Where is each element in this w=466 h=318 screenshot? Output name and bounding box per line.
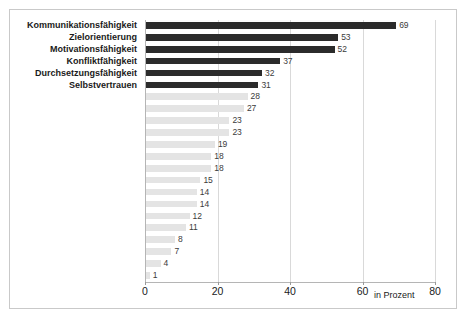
category-label: Kommunikationsfähigkeit bbox=[27, 20, 137, 31]
bar-row[interactable]: 31 bbox=[145, 80, 435, 92]
bar-row[interactable]: 18 bbox=[145, 151, 435, 163]
bar[interactable] bbox=[146, 117, 229, 124]
bar-row[interactable]: 1 bbox=[145, 270, 435, 282]
gridline-80 bbox=[435, 20, 436, 282]
x-tick-label-40: 40 bbox=[284, 285, 296, 298]
category-label-row-empty bbox=[12, 163, 141, 175]
bar[interactable] bbox=[146, 58, 280, 65]
bar-value-label: 11 bbox=[189, 221, 198, 234]
category-label-row-empty bbox=[12, 199, 141, 211]
bar-value-label: 27 bbox=[247, 102, 256, 115]
category-label-row-empty bbox=[12, 246, 141, 258]
chart-figure: KommunikationsfähigkeitZielorientierungM… bbox=[0, 0, 466, 318]
x-tick-label-60: 60 bbox=[357, 285, 369, 298]
category-label-row-empty bbox=[12, 151, 141, 163]
category-label-row-empty bbox=[12, 234, 141, 246]
bar-value-label: 18 bbox=[214, 162, 223, 175]
x-tick-label-0: 0 bbox=[142, 285, 148, 298]
bar-row[interactable]: 11 bbox=[145, 222, 435, 234]
bar-row[interactable]: 27 bbox=[145, 103, 435, 115]
category-label: Zielorientierung bbox=[69, 32, 137, 43]
bar[interactable] bbox=[146, 70, 262, 77]
bar-row[interactable]: 23 bbox=[145, 115, 435, 127]
bar[interactable] bbox=[146, 141, 215, 148]
bar[interactable] bbox=[146, 248, 171, 255]
category-label-row: Motivationsfähigkeit bbox=[12, 44, 141, 56]
category-label-row: Selbstvertrauen bbox=[12, 80, 141, 92]
category-label-row-empty bbox=[12, 222, 141, 234]
category-label-row-empty bbox=[12, 139, 141, 151]
bar-row[interactable]: 69 bbox=[145, 20, 435, 32]
category-label: Konfliktfähigkeit bbox=[66, 56, 137, 67]
category-label-row: Zielorientierung bbox=[12, 32, 141, 44]
category-label: Durchsetzungsfähigkeit bbox=[35, 68, 137, 79]
bar[interactable] bbox=[146, 153, 211, 160]
bar[interactable] bbox=[146, 201, 197, 208]
bar-row[interactable]: 18 bbox=[145, 163, 435, 175]
category-label-row-empty bbox=[12, 127, 141, 139]
bar[interactable] bbox=[146, 260, 161, 267]
category-label-row-empty bbox=[12, 211, 141, 223]
bar[interactable] bbox=[146, 129, 229, 136]
bar-row[interactable]: 53 bbox=[145, 32, 435, 44]
bar[interactable] bbox=[146, 34, 338, 41]
bar[interactable] bbox=[146, 22, 396, 29]
category-labels: KommunikationsfähigkeitZielorientierungM… bbox=[12, 20, 141, 282]
bar[interactable] bbox=[146, 177, 200, 184]
category-label-row-empty bbox=[12, 103, 141, 115]
bar-row[interactable]: 15 bbox=[145, 175, 435, 187]
bar[interactable] bbox=[146, 105, 244, 112]
bar-row[interactable]: 19 bbox=[145, 139, 435, 151]
bar-value-label: 1 bbox=[153, 269, 158, 282]
category-label-row: Konfliktfähigkeit bbox=[12, 56, 141, 68]
bar[interactable] bbox=[146, 272, 150, 279]
category-label-row-empty bbox=[12, 258, 141, 270]
bar-rows: 6953523732312827232319181815141412118741 bbox=[145, 20, 435, 282]
bar-row[interactable]: 8 bbox=[145, 234, 435, 246]
bar-row[interactable]: 32 bbox=[145, 68, 435, 80]
bar-row[interactable]: 23 bbox=[145, 127, 435, 139]
bar-row[interactable]: 14 bbox=[145, 187, 435, 199]
x-axis-unit-label: in Prozent bbox=[374, 289, 415, 301]
bar[interactable] bbox=[146, 189, 197, 196]
bar-value-label: 23 bbox=[232, 126, 241, 139]
bar[interactable] bbox=[146, 213, 190, 220]
category-label-row-empty bbox=[12, 91, 141, 103]
bar-value-label: 52 bbox=[338, 43, 347, 56]
bar-value-label: 7 bbox=[174, 245, 179, 258]
category-label-row: Kommunikationsfähigkeit bbox=[12, 20, 141, 32]
bar-row[interactable]: 4 bbox=[145, 258, 435, 270]
bar-row[interactable]: 7 bbox=[145, 246, 435, 258]
bar-value-label: 37 bbox=[283, 55, 292, 68]
bar[interactable] bbox=[146, 165, 211, 172]
category-label-row-empty bbox=[12, 270, 141, 282]
bar-row[interactable]: 37 bbox=[145, 56, 435, 68]
bar[interactable] bbox=[146, 93, 248, 100]
x-tick-label-80: 80 bbox=[429, 285, 441, 298]
bar-value-label: 31 bbox=[261, 79, 270, 92]
bar-value-label: 4 bbox=[164, 257, 169, 270]
bar[interactable] bbox=[146, 46, 335, 53]
bar-row[interactable]: 14 bbox=[145, 199, 435, 211]
category-label-row: Durchsetzungsfähigkeit bbox=[12, 68, 141, 80]
category-label: Motivationsfähigkeit bbox=[50, 44, 137, 55]
bar[interactable] bbox=[146, 224, 186, 231]
bar[interactable] bbox=[146, 82, 258, 89]
category-label: Selbstvertrauen bbox=[69, 80, 137, 91]
category-label-row-empty bbox=[12, 187, 141, 199]
bar-row[interactable]: 28 bbox=[145, 91, 435, 103]
bar-value-label: 69 bbox=[399, 19, 408, 32]
plot-area: 6953523732312827232319181815141412118741 bbox=[145, 20, 435, 282]
category-label-row-empty bbox=[12, 175, 141, 187]
x-tick-label-20: 20 bbox=[212, 285, 224, 298]
category-label-row-empty bbox=[12, 115, 141, 127]
bar[interactable] bbox=[146, 236, 175, 243]
